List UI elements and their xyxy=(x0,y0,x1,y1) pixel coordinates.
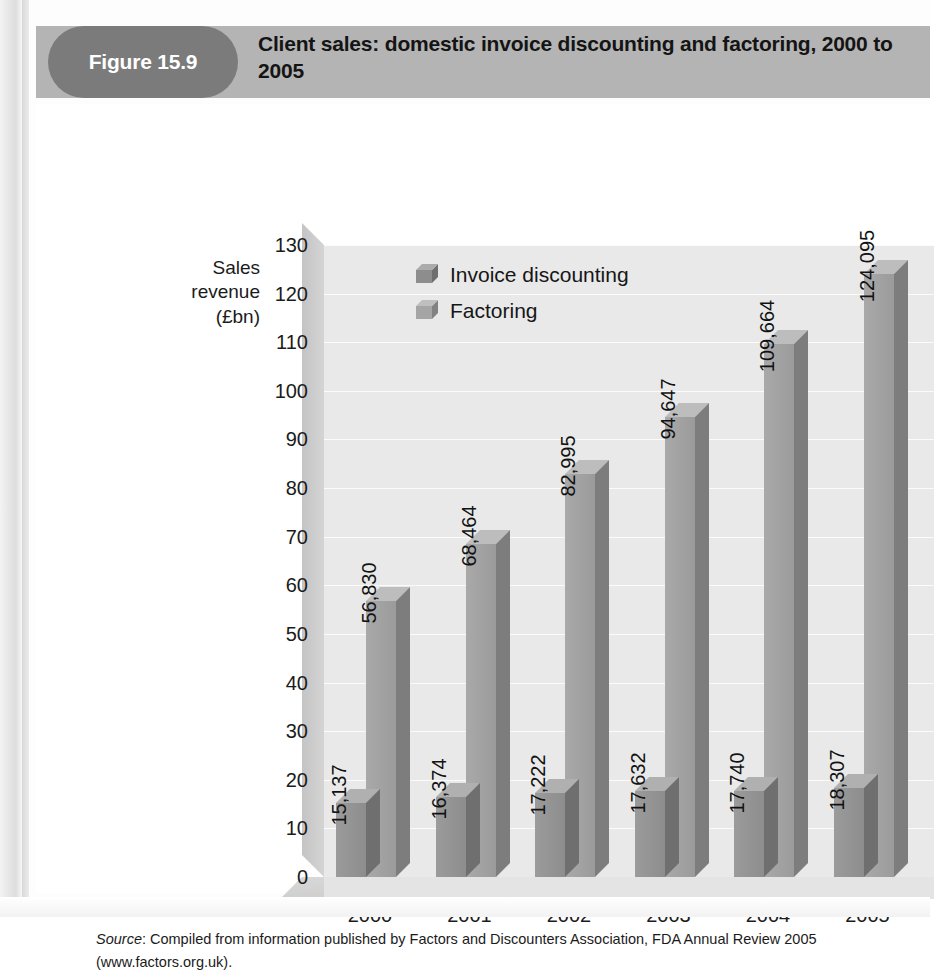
bar-value-label: 94,647 xyxy=(657,378,680,439)
chart-3d-bar: Salesrevenue(£bn) 0102030405060708090100… xyxy=(36,104,930,849)
bar-invoice-discounting-2000: 15,137 xyxy=(336,803,366,877)
figure-number-badge: Figure 15.9 xyxy=(48,26,238,98)
bar-invoice-discounting-2001: 16,374 xyxy=(436,797,466,877)
figure-body: Salesrevenue(£bn) 0102030405060708090100… xyxy=(36,104,930,894)
source-text: : Compiled from information published by… xyxy=(96,931,817,970)
bar-value-label: 56,830 xyxy=(358,562,381,623)
bar-invoice-discounting-2004: 17,740 xyxy=(734,791,764,877)
source-note: Source: Compiled from information publis… xyxy=(96,928,936,974)
chart-legend: Invoice discounting Factoring xyxy=(416,259,716,331)
bar-value-label: 109,664 xyxy=(756,300,779,372)
legend-item-factoring: Factoring xyxy=(416,295,716,327)
figure-number-label: Figure 15.9 xyxy=(89,50,198,74)
legend-item-invoice-discounting: Invoice discounting xyxy=(416,259,716,291)
bar-value-label: 17,222 xyxy=(527,755,550,816)
bar-value-label: 17,740 xyxy=(726,752,749,813)
bar-invoice-discounting-2005: 18,307 xyxy=(834,788,864,877)
bar-value-label: 82,995 xyxy=(557,435,580,496)
bar-value-label: 15,137 xyxy=(328,765,351,826)
source-prefix: Source xyxy=(96,931,142,947)
legend-label-factoring: Factoring xyxy=(450,299,538,323)
bar-invoice-discounting-2003: 17,632 xyxy=(635,791,665,877)
legend-label-invoice-discounting: Invoice discounting xyxy=(450,263,629,287)
bar-series-group: 15,13756,83016,37468,46417,22282,99517,6… xyxy=(36,104,930,899)
bar-value-label: 68,464 xyxy=(458,506,481,567)
figure-title: Client sales: domestic invoice discounti… xyxy=(258,30,918,85)
bar-value-label: 17,632 xyxy=(627,753,650,814)
legend-swatch-icon-invoice-discounting xyxy=(416,267,438,283)
bar-invoice-discounting-2002: 17,222 xyxy=(535,793,565,877)
bar-value-label: 16,374 xyxy=(428,759,451,820)
bar-value-label: 18,307 xyxy=(826,749,849,810)
page-spine xyxy=(22,0,29,917)
page-bottom-edge xyxy=(0,897,930,917)
page-left-edge xyxy=(0,0,22,917)
legend-swatch-icon-factoring xyxy=(416,303,438,319)
bar-value-label: 124,095 xyxy=(856,230,879,302)
